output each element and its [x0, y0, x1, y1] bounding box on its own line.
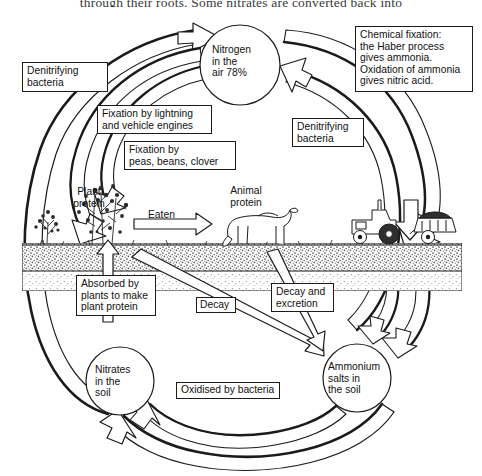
- label-fixation-lightning: Fixation by lightning and vehicle engine…: [97, 105, 212, 134]
- nitrogen-cycle-figure: through their roots. Some nitrates are c…: [0, 0, 482, 476]
- label-denitrifying-bacteria-right: Denitrifying bacteria: [292, 118, 364, 147]
- label-absorbed-by-plants: Absorbed by plants to make plant protein: [76, 275, 156, 316]
- label-fixation-legumes: Fixation by peas, beans, clover: [124, 141, 236, 170]
- node-label-nitrates-soil: Nitrates in the soil: [95, 364, 157, 399]
- node-label-nitrogen-air: Nitrogen in the air 78%: [212, 44, 278, 79]
- label-chemical-fixation: Chemical fixation: the Haber process giv…: [355, 26, 473, 92]
- label-denitrifying-bacteria-left: Denitrifying bacteria: [22, 62, 108, 92]
- label-decay-and-excretion: Decay and excretion: [271, 283, 334, 312]
- caption-plant-protein: Plant protein: [63, 186, 115, 209]
- label-eaten: Eaten: [148, 209, 186, 221]
- caption-animal-protein: Animal protein: [218, 185, 274, 208]
- label-oxidised-by-bacteria: Oxidised by bacteria: [176, 382, 280, 399]
- node-label-ammonium-salts: Ammonium salts in the soil: [328, 361, 392, 396]
- label-decay: Decay: [196, 297, 236, 313]
- cow-illustration: [223, 208, 298, 246]
